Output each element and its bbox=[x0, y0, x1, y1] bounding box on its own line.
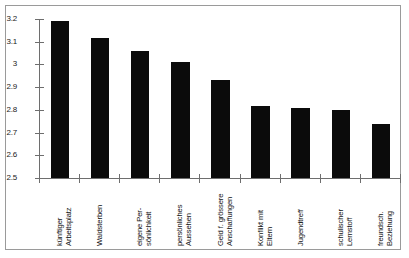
y-tick-label: 2.8 bbox=[0, 106, 17, 114]
x-category-label: Geld f. grössereAnschaffungen bbox=[217, 184, 234, 246]
y-tick-label: 3 bbox=[0, 60, 17, 68]
bar[interactable] bbox=[91, 38, 109, 178]
x-category-label: Jugendtreff bbox=[297, 184, 306, 246]
x-category-label-line: Jugendtreff bbox=[297, 184, 306, 246]
bar[interactable] bbox=[291, 108, 309, 178]
x-category-label-line: sönlichkeit bbox=[145, 184, 154, 246]
x-category-label-line: Beziehung bbox=[386, 184, 395, 246]
x-category-label-line: Aussehen bbox=[185, 184, 194, 246]
x-category-label: eigene Per-sönlichkeit bbox=[136, 184, 153, 246]
x-category-label-line: Geld f. grössere bbox=[217, 184, 226, 246]
x-category-label-line: Eltern bbox=[265, 184, 274, 246]
x-category-label-line: Arbeitsplatz bbox=[65, 184, 74, 246]
chart-frame: 3.23.132.92.82.72.62.5 künftigerArbeitsp… bbox=[5, 5, 401, 250]
x-category-label: persönlichesAussehen bbox=[176, 184, 193, 246]
bar[interactable] bbox=[131, 51, 149, 178]
bar[interactable] bbox=[51, 21, 69, 178]
bars-layer bbox=[40, 19, 401, 178]
y-tick-label: 2.9 bbox=[0, 83, 17, 91]
x-axis-line bbox=[39, 178, 401, 179]
x-category-label: künftigerArbeitsplatz bbox=[56, 184, 73, 246]
y-tick-label: 2.6 bbox=[0, 151, 17, 159]
bar[interactable] bbox=[332, 110, 350, 178]
x-category-label: Waldsterben bbox=[96, 184, 105, 246]
x-category-label-line: Anschaffungen bbox=[225, 184, 234, 246]
bar[interactable] bbox=[171, 62, 189, 178]
x-category-label-line: Lernstoff bbox=[345, 184, 354, 246]
bar[interactable] bbox=[251, 106, 269, 178]
y-tick-label: 3.2 bbox=[0, 15, 17, 23]
x-category-label: freundsch.Beziehung bbox=[377, 184, 394, 246]
y-tick-label: 2.5 bbox=[0, 174, 17, 182]
x-category-label-line: Konflikt mit bbox=[257, 184, 266, 246]
y-tick-label: 2.7 bbox=[0, 129, 17, 137]
x-category-label-line: Waldsterben bbox=[96, 184, 105, 246]
bar[interactable] bbox=[211, 80, 229, 178]
bar[interactable] bbox=[372, 124, 390, 179]
x-category-label: schulischerLernstoff bbox=[337, 184, 354, 246]
x-category-label: Konflikt mitEltern bbox=[257, 184, 274, 246]
y-tick-label: 3.1 bbox=[0, 38, 17, 46]
